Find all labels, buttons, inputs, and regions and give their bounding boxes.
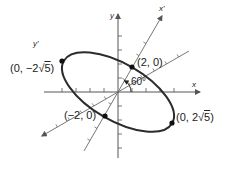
y-axis-label: y <box>110 12 114 20</box>
point-neg-x-prime-covertex <box>102 113 107 118</box>
angle-label: 60° <box>131 77 146 87</box>
label-suffix: ) <box>51 62 55 74</box>
point-neg-y-prime-vertex <box>59 58 64 63</box>
label-prefix: (0, −2 <box>10 62 38 74</box>
x-prime-axis <box>81 14 162 151</box>
rotated-ellipse-diagram: x y x' y' 60° (0, −2√5) (2, 0) (−2, 0) (… <box>0 0 225 170</box>
label-neg-x-prime-covertex: (−2, 0) <box>64 110 96 121</box>
label-neg-y-prime-vertex: (0, −2√5) <box>10 63 54 74</box>
point-pos-y-prime-vertex <box>169 120 174 125</box>
point-pos-x-prime-covertex <box>129 64 134 69</box>
label-prefix: (0, 2 <box>176 111 198 123</box>
x-axis-label: x <box>192 81 196 89</box>
y-prime-axis-label: y' <box>33 40 39 48</box>
label-suffix: ) <box>210 111 214 123</box>
label-pos-x-prime-covertex: (2, 0) <box>137 57 163 68</box>
label-pos-y-prime-vertex: (0, 2√5) <box>176 112 214 123</box>
x-prime-axis-label: x' <box>159 5 165 13</box>
